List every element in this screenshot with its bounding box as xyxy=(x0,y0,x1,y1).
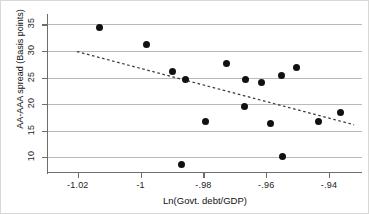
x-tick-label: -1 xyxy=(121,180,161,190)
data-point xyxy=(278,72,285,79)
data-point xyxy=(258,79,265,86)
x-tick-label: -.96 xyxy=(246,180,286,190)
data-point xyxy=(178,161,185,168)
y-tick-label: 10 xyxy=(26,146,36,166)
y-tick-label: 30 xyxy=(26,40,36,60)
data-point xyxy=(182,76,189,83)
y-tick-label: 25 xyxy=(26,67,36,87)
data-point xyxy=(337,109,344,116)
y-axis-title: AA-AAA spread (Basis points) xyxy=(15,0,25,144)
data-point xyxy=(279,153,286,160)
y-tick-label: 35 xyxy=(26,13,36,33)
x-tick-mark xyxy=(266,173,267,178)
x-tick-mark xyxy=(78,173,79,178)
x-tick-label: -.98 xyxy=(183,180,223,190)
x-tick-label: -.94 xyxy=(309,180,349,190)
x-tick-mark xyxy=(141,173,142,178)
trendline xyxy=(48,16,362,172)
x-tick-label: -1.02 xyxy=(58,180,98,190)
y-tick-label: 20 xyxy=(26,93,36,113)
x-axis-title: Ln(Govt. debt/GDP) xyxy=(48,195,362,206)
x-tick-mark xyxy=(329,173,330,178)
y-tick-label: 15 xyxy=(26,120,36,140)
data-point xyxy=(202,118,209,125)
scatter-plot-figure: AA-AAA spread (Basis points) Ln(Govt. de… xyxy=(0,0,369,214)
data-point xyxy=(143,41,150,48)
data-point xyxy=(96,24,103,31)
x-tick-mark xyxy=(203,173,204,178)
data-point xyxy=(315,118,322,125)
data-point xyxy=(242,76,249,83)
plot-area xyxy=(48,16,362,172)
